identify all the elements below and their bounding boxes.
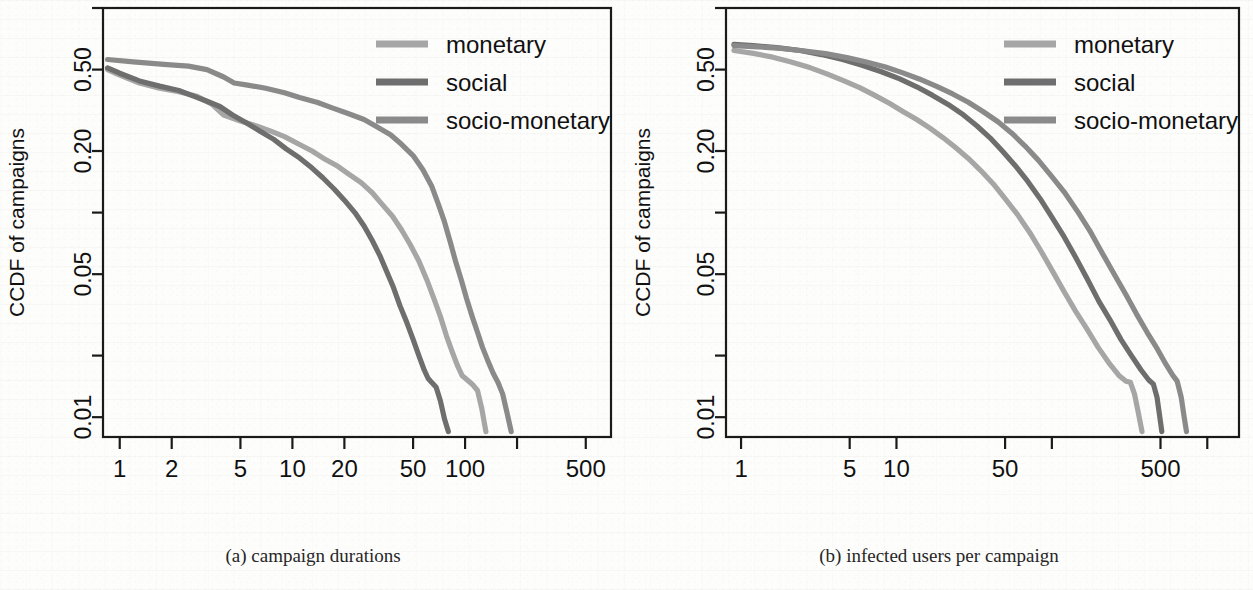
legend-label-socio-monetary: socio-monetary [446,107,610,134]
y-tick-label: 0.50 [70,47,96,92]
x-tick-label: 100 [445,455,485,482]
y-axis-title: CCDF of campaigns [631,128,654,317]
x-tick-label: 20 [331,455,358,482]
y-axis-title: CCDF of campaigns [5,128,28,317]
x-tick-label: 1 [113,455,126,482]
y-tick-label: 0.05 [693,252,719,297]
x-tick-label: 50 [992,455,1019,482]
legend-label-monetary: monetary [1074,31,1174,58]
y-tick-label: 0.01 [693,395,719,440]
x-tick-label: 500 [566,455,606,482]
plot-frame [103,8,611,437]
y-tick-label: 0.20 [70,129,96,174]
x-tick-label: 10 [883,455,910,482]
y-tick-label: 0.01 [70,395,96,440]
x-tick-label: 1 [734,455,747,482]
panel-a-caption: (a) campaign durations [0,545,626,567]
panel-b-caption: (b) infected users per campaign [626,545,1252,567]
panel-a-plot: 0.500.200.050.01125102050100500daysCCDF … [0,0,626,512]
legend-label-social: social [1074,69,1135,96]
y-tick-label: 0.20 [693,129,719,174]
x-tick-label: 50 [400,455,427,482]
plot-frame [726,8,1239,437]
x-tick-label: 10 [279,455,306,482]
panel-a: 0.500.200.050.01125102050100500daysCCDF … [0,0,626,590]
panel-b: 0.500.200.050.01151050500infected usersC… [626,0,1252,590]
series-line-social [734,44,1162,431]
panel-b-plot: 0.500.200.050.01151050500infected usersC… [626,0,1253,512]
x-tick-label: 5 [234,455,247,482]
y-tick-label: 0.05 [70,252,96,297]
figure-ccdf-campaigns: 0.500.200.050.01125102050100500daysCCDF … [0,0,1253,590]
legend-label-socio-monetary: socio-monetary [1074,107,1238,134]
x-tick-label: 500 [1140,455,1180,482]
y-tick-label: 0.50 [693,47,719,92]
x-tick-label: 5 [843,455,856,482]
x-tick-label: 2 [165,455,178,482]
legend-label-monetary: monetary [446,31,546,58]
legend-label-social: social [446,69,507,96]
